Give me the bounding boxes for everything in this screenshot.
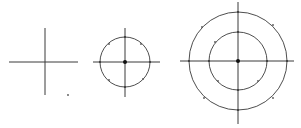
axis-intersection-dot xyxy=(237,11,239,13)
small-mark-dot xyxy=(201,26,203,28)
center-dot xyxy=(123,60,127,64)
small-mark-dot xyxy=(214,41,216,43)
small-mark-dot xyxy=(257,80,259,82)
axis-intersection-dot xyxy=(99,61,101,63)
axis-intersection-dot xyxy=(237,31,239,33)
axis-intersection-dot xyxy=(149,61,151,63)
small-mark-dot xyxy=(108,79,110,81)
axis-intersection-dot xyxy=(124,86,126,88)
center-dot xyxy=(236,59,240,63)
axis-intersection-dot xyxy=(208,60,210,62)
small-mark-dot xyxy=(272,97,274,99)
axis-intersection-dot xyxy=(188,60,190,62)
small-mark-dot xyxy=(217,80,219,82)
small-mark-dot xyxy=(203,97,205,99)
small-mark-dot xyxy=(142,78,144,80)
figure-cross xyxy=(9,28,78,96)
small-mark-dot xyxy=(272,24,274,26)
diagram-canvas xyxy=(0,0,301,128)
small-mark-dot xyxy=(108,43,110,45)
small-mark-dot xyxy=(140,43,142,45)
axis-intersection-dot xyxy=(237,109,239,111)
axis-intersection-dot xyxy=(124,36,126,38)
figure-cross-with-circle xyxy=(93,28,160,97)
small-mark-dot xyxy=(67,94,69,96)
axis-intersection-dot xyxy=(266,60,268,62)
figure-cross-with-two-circles xyxy=(180,2,294,124)
axis-intersection-dot xyxy=(237,89,239,91)
axis-intersection-dot xyxy=(286,60,288,62)
